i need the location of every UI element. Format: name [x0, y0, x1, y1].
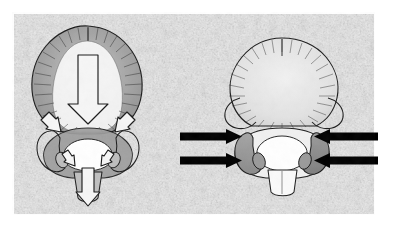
figure-svg: [0, 0, 393, 231]
right-spinous-process: [268, 170, 297, 196]
figure-canvas: Atlas (C1) vertebra load-transmission di…: [0, 0, 393, 231]
